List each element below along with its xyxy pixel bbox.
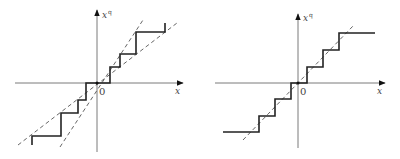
- y-axis-label: x: [303, 13, 308, 23]
- origin-label: 0: [300, 86, 306, 97]
- y-axis-label-superscript: q: [108, 8, 112, 16]
- quantizer-diagram: 0 x x q 0 x x q: [0, 0, 400, 159]
- left-panel: 0 x x q: [15, 8, 183, 152]
- y-axis-label-superscript: q: [309, 11, 313, 19]
- origin-dot: [297, 82, 300, 85]
- right-panel: 0 x x q: [215, 11, 385, 148]
- x-axis-label: x: [377, 86, 382, 96]
- x-axis-label: x: [175, 86, 180, 96]
- y-axis-label: x: [102, 10, 107, 20]
- quantizer-staircase: [32, 23, 165, 145]
- origin-dot: [96, 82, 99, 85]
- origin-label: 0: [99, 86, 105, 97]
